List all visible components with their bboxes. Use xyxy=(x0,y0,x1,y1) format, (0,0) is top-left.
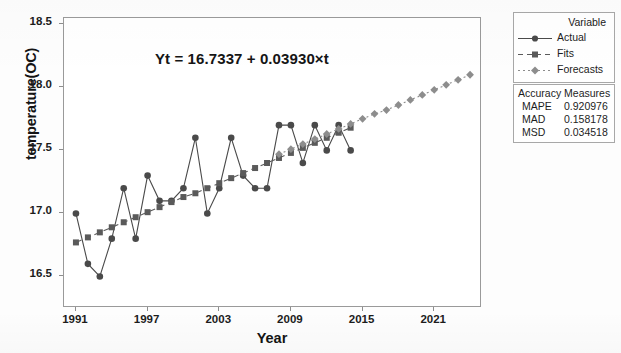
data-point xyxy=(97,273,104,280)
series-forecasts xyxy=(275,71,474,158)
data-point xyxy=(264,160,270,166)
y-tick-label: 17.0 xyxy=(10,204,52,216)
data-point xyxy=(442,81,450,89)
data-point xyxy=(466,71,474,79)
data-point xyxy=(395,101,403,109)
data-point xyxy=(418,91,426,99)
accuracy-value-msd: 0.034518 xyxy=(560,126,610,139)
accuracy-label-mape: MAPE xyxy=(522,100,560,113)
legend-label-actual: Actual xyxy=(557,31,586,44)
data-point xyxy=(145,209,151,215)
data-point xyxy=(108,235,115,242)
data-point xyxy=(371,110,379,118)
series-actual xyxy=(73,122,354,280)
legend-swatch-forecasts-icon xyxy=(518,63,552,76)
x-tick-mark xyxy=(147,307,148,311)
accuracy-measures-box: Accuracy Measures MAPE 0.920976 MAD 0.15… xyxy=(513,84,615,143)
x-tick-label: 2015 xyxy=(337,313,387,325)
data-point xyxy=(204,210,211,217)
x-tick-label: 2009 xyxy=(265,313,315,325)
legend-swatch-actual-icon xyxy=(518,31,552,44)
data-point xyxy=(156,198,163,205)
data-point xyxy=(144,172,151,179)
data-point xyxy=(120,185,127,192)
accuracy-label-msd: MSD xyxy=(522,126,560,139)
data-point xyxy=(276,122,283,129)
data-point xyxy=(157,204,163,210)
data-point xyxy=(252,165,258,171)
regression-equation-annotation: Yt = 16.7337 + 0.03930×t xyxy=(155,50,329,67)
data-point xyxy=(383,106,391,114)
data-point xyxy=(347,147,354,154)
data-point xyxy=(204,185,210,191)
data-point xyxy=(180,194,186,200)
data-point xyxy=(73,210,80,217)
data-point xyxy=(228,175,234,181)
data-point xyxy=(192,134,199,141)
data-point xyxy=(312,122,319,129)
accuracy-measures-title: Accuracy Measures xyxy=(518,87,610,99)
data-point xyxy=(454,76,462,84)
data-point xyxy=(97,229,103,235)
data-point xyxy=(264,185,271,192)
legend-item-fits[interactable]: Fits xyxy=(518,46,610,61)
accuracy-label-mad: MAD xyxy=(522,113,560,126)
legend: Variable Actual Fits xyxy=(513,12,615,83)
x-tick-label: 1997 xyxy=(122,313,172,325)
data-point xyxy=(228,134,235,141)
data-point xyxy=(323,147,330,154)
legend-title: Variable xyxy=(518,16,610,28)
data-point xyxy=(406,96,414,104)
legend-label-forecasts: Forecasts xyxy=(557,63,603,76)
x-tick-mark xyxy=(75,307,76,311)
x-tick-label: 1991 xyxy=(50,313,100,325)
data-point xyxy=(192,190,198,196)
data-point xyxy=(216,180,222,186)
data-point xyxy=(300,160,307,167)
legend-item-actual[interactable]: Actual xyxy=(518,30,610,45)
data-point xyxy=(109,224,115,230)
data-point xyxy=(430,86,438,94)
data-point xyxy=(180,185,187,192)
data-point xyxy=(85,234,91,240)
data-point xyxy=(168,199,174,205)
x-tick-mark xyxy=(362,307,363,311)
data-point xyxy=(85,261,92,268)
trend-analysis-chart: temperature(OC) 16.517.017.518.018.5 199… xyxy=(0,0,621,353)
y-tick-label: 17.5 xyxy=(10,141,52,153)
accuracy-row-msd: MSD 0.034518 xyxy=(518,126,610,139)
accuracy-value-mad: 0.158178 xyxy=(560,113,610,126)
legend-swatch-fits-icon xyxy=(518,47,552,60)
data-point xyxy=(359,115,367,123)
accuracy-row-mape: MAPE 0.920976 xyxy=(518,100,610,113)
x-tick-label: 2003 xyxy=(193,313,243,325)
accuracy-value-mape: 0.920976 xyxy=(560,100,610,113)
y-axis-title: temperature(OC) xyxy=(23,9,39,199)
x-tick-mark xyxy=(433,307,434,311)
legend-item-forecasts[interactable]: Forecasts xyxy=(518,62,610,77)
data-point xyxy=(133,214,139,220)
data-point xyxy=(73,239,79,245)
y-tick-label: 16.5 xyxy=(10,267,52,279)
data-point xyxy=(288,122,295,129)
x-axis-title: Year xyxy=(63,330,481,346)
data-point xyxy=(252,185,259,192)
data-point xyxy=(121,219,127,225)
y-tick-label: 18.5 xyxy=(10,15,52,27)
x-tick-mark xyxy=(218,307,219,311)
accuracy-row-mad: MAD 0.158178 xyxy=(518,113,610,126)
x-tick-label: 2021 xyxy=(408,313,458,325)
series-fits xyxy=(73,125,354,246)
data-point xyxy=(132,235,139,242)
legend-label-fits: Fits xyxy=(557,47,574,60)
x-tick-mark xyxy=(290,307,291,311)
y-tick-label: 18.0 xyxy=(10,78,52,90)
data-point xyxy=(240,170,246,176)
